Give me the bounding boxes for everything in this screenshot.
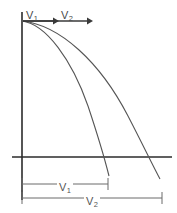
velocity-label-v1-base: V — [26, 9, 34, 21]
range-label-v2-subscript: 2 — [94, 200, 98, 209]
velocity-label-v2-subscript: 2 — [69, 14, 73, 23]
velocity-vector-v2-arrowhead — [87, 18, 93, 25]
range-label-v1: V1 — [57, 178, 73, 195]
velocity-label-v2: V2 — [61, 6, 73, 23]
trajectory-curve-v1 — [22, 21, 109, 176]
trajectory-curve-v2 — [22, 21, 160, 179]
projectile-trajectory-figure: V1 V2 V1 V2 — [0, 0, 177, 213]
range-label-v1-base: V — [59, 181, 67, 193]
diagram-canvas — [0, 0, 177, 213]
range-label-v1-subscript: 1 — [67, 186, 71, 195]
velocity-label-v1: V1 — [26, 6, 38, 23]
range-label-v2: V2 — [84, 192, 100, 209]
range-label-v2-base: V — [86, 195, 94, 207]
velocity-label-v2-base: V — [61, 9, 69, 21]
velocity-label-v1-subscript: 1 — [34, 14, 38, 23]
